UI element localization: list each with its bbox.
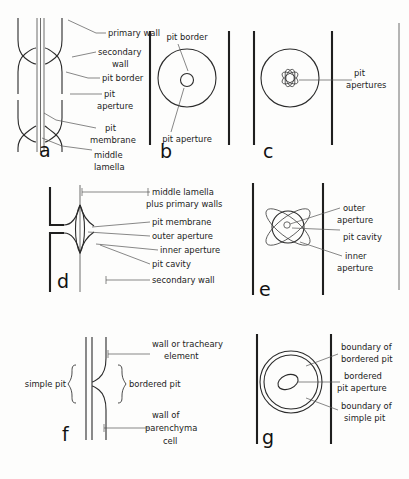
label-outer-aperture-e-line2: aperture bbox=[337, 215, 373, 225]
panel-letter-f: f bbox=[62, 423, 70, 445]
label-inner-aperture-e-line2: aperture bbox=[337, 263, 373, 273]
panel-a-drawing bbox=[18, 18, 106, 152]
panel-c-drawing bbox=[254, 31, 352, 145]
label-bordered-pit: bordered pit bbox=[129, 379, 181, 389]
label-middle-lamella-primary-line2: plus primary walls bbox=[146, 199, 222, 209]
panel-d-labels: middle lamella plus primary walls pit me… bbox=[57, 187, 222, 292]
label-wall-parenchyma-line1: wall of bbox=[152, 410, 180, 420]
panel-a-labels: primary wall secondary wall pit border p… bbox=[39, 28, 160, 172]
pit-types-figure: primary wall secondary wall pit border p… bbox=[0, 0, 409, 479]
label-wall-tracheary-line1: wall or tracheary bbox=[152, 339, 223, 349]
label-middle-lamella-line1: middle bbox=[94, 150, 123, 160]
panel-e-labels: outer aperture pit cavity inner aperture… bbox=[259, 203, 382, 300]
label-bordered-aperture-line2: pit aperture bbox=[337, 383, 387, 393]
label-inner-aperture-e-line1: inner bbox=[345, 251, 367, 261]
label-outer-aperture-e-line1: outer bbox=[343, 203, 366, 213]
panel-b-labels: pit border pit aperture b bbox=[160, 32, 212, 162]
panel-c-labels: pit apertures c bbox=[263, 68, 386, 162]
label-middle-lamella-line2: lamella bbox=[94, 162, 125, 172]
label-bordered-aperture-line1: bordered bbox=[344, 371, 382, 381]
label-secondary-wall-d: secondary wall bbox=[152, 275, 215, 285]
label-pit-aperture-line2: aperture bbox=[97, 101, 133, 111]
panel-letter-c: c bbox=[263, 140, 273, 162]
label-wall-parenchyma-line2: parenchyma bbox=[145, 423, 197, 433]
label-secondary-wall-line2: wall bbox=[112, 59, 129, 69]
label-pit-cavity-e: pit cavity bbox=[343, 232, 382, 242]
label-secondary-wall-line1: secondary bbox=[98, 47, 141, 57]
panel-letter-b: b bbox=[160, 140, 172, 162]
panel-letter-g: g bbox=[262, 426, 274, 448]
label-middle-lamella-primary-line1: middle lamella bbox=[152, 187, 214, 197]
label-wall-parenchyma-line3: cell bbox=[163, 436, 177, 446]
panel-letter-d: d bbox=[57, 270, 69, 292]
panel-b-drawing bbox=[150, 31, 229, 145]
label-boundary-simple-line2: simple pit bbox=[344, 413, 386, 423]
label-pit-membrane-line1: pit bbox=[105, 123, 117, 133]
panel-letter-e: e bbox=[259, 278, 271, 300]
label-wall-tracheary-line2: element bbox=[164, 351, 199, 361]
label-pit-aperture-line1: pit bbox=[104, 89, 116, 99]
figure-canvas: primary wall secondary wall pit border p… bbox=[0, 0, 409, 479]
label-boundary-bordered-line1: boundary of bbox=[341, 342, 393, 352]
label-simple-pit: simple pit bbox=[25, 379, 67, 389]
label-boundary-bordered-line2: bordered pit bbox=[341, 354, 393, 364]
label-pit-membrane-d: pit membrane bbox=[152, 217, 211, 227]
label-pit-border: pit border bbox=[102, 73, 144, 83]
label-inner-aperture-d: inner aperture bbox=[160, 245, 220, 255]
label-boundary-simple-line1: boundary of bbox=[341, 401, 393, 411]
panel-letter-a: a bbox=[39, 139, 51, 161]
panel-f-labels: wall or tracheary element simple pit bor… bbox=[25, 339, 223, 446]
label-pit-cavity-d: pit cavity bbox=[152, 259, 191, 269]
label-pit-apertures-line1: pit bbox=[354, 68, 366, 78]
label-pit-apertures-line2: apertures bbox=[346, 80, 386, 90]
label-outer-aperture-d: outer aperture bbox=[152, 231, 213, 241]
label-primary-wall: primary wall bbox=[108, 28, 160, 38]
label-pit-membrane-line2: membrane bbox=[90, 135, 136, 145]
label-pit-border-b: pit border bbox=[166, 32, 208, 42]
